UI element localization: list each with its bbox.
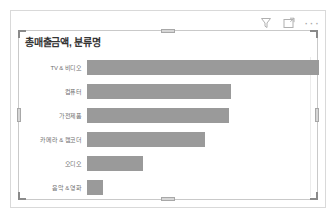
bar-row[interactable]: 음악 & 영화 [19,175,319,199]
resize-handle-bottom-left[interactable] [18,192,26,200]
bar-track [87,151,319,175]
resize-handle-right[interactable] [315,108,319,122]
category-label: 오디오 [19,159,87,168]
bar-track [87,175,319,199]
bar-value[interactable] [87,132,205,147]
bar-row[interactable]: 가전제품 [19,103,319,127]
report-visual-card: ··· 총매출금액, 분류명 TV & 비디오 컴 [10,10,326,208]
bar-row[interactable]: 카메라 & 캠코더 [19,127,319,151]
bar-chart-visual[interactable]: 총매출금액, 분류명 TV & 비디오 컴퓨터 가전제품 [18,30,318,200]
visual-header-toolbar: ··· [259,14,319,32]
category-label: 음악 & 영화 [19,183,87,192]
bar-track [87,55,319,79]
bar-value[interactable] [87,180,103,195]
resize-handle-left[interactable] [17,108,21,122]
screenshot-root: ··· 총매출금액, 분류명 TV & 비디오 컴 [0,0,336,218]
category-label: 컴퓨터 [19,87,87,96]
bar-value[interactable] [87,84,231,99]
category-label: 카메라 & 캠코더 [19,135,87,144]
resize-handle-bottom[interactable] [161,197,175,201]
bar-track [87,127,319,151]
filter-funnel-icon[interactable] [259,16,273,30]
resize-handle-top[interactable] [161,29,175,33]
bar-row[interactable]: 컴퓨터 [19,79,319,103]
resize-handle-top-left[interactable] [18,30,26,38]
chart-title: 총매출금액, 분류명 [25,34,101,49]
bar-row[interactable]: 오디오 [19,151,319,175]
resize-handle-bottom-right[interactable] [310,192,318,200]
focus-mode-icon[interactable] [282,16,296,30]
chart-plot-area: TV & 비디오 컴퓨터 가전제품 [19,55,319,199]
bar-track [87,79,319,103]
bar-value[interactable] [87,60,319,75]
category-label: TV & 비디오 [19,63,87,72]
bar-track [87,103,319,127]
bar-value[interactable] [87,108,229,123]
bar-row[interactable]: TV & 비디오 [19,55,319,79]
bar-value[interactable] [87,156,143,171]
category-label: 가전제품 [19,111,87,120]
more-options-ellipsis-icon[interactable]: ··· [305,16,319,30]
